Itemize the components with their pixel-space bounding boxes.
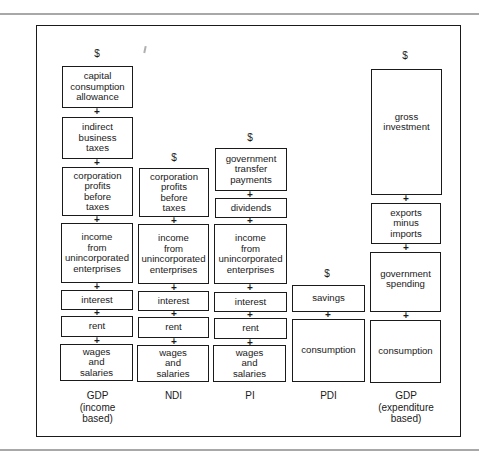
box-label: exports minus imports (390, 208, 421, 240)
box-label: rent (242, 323, 259, 334)
box-wages-salaries: wages and salaries (60, 344, 133, 381)
box-label: interest (158, 296, 189, 307)
plus-sign: + (323, 311, 333, 319)
box-label: wages and salaries (233, 348, 266, 380)
box-wages-salaries: wages and salaries (213, 345, 286, 382)
column-label-ndi: NDI (138, 390, 209, 402)
plus-sign: + (245, 284, 255, 292)
box-label: interest (235, 297, 266, 308)
box-label: income from unincorporated enterprises (218, 233, 282, 275)
box-label: dividends (231, 203, 272, 214)
column-label-gdp-income: GDP (income based) (62, 390, 133, 425)
top-rule (0, 13, 479, 15)
column-label-gdp-expenditure: GDP (expenditure based) (362, 390, 450, 425)
plus-sign: + (92, 108, 102, 116)
plus-sign: + (401, 312, 411, 320)
box-label: interest (81, 295, 112, 306)
box-income-unincorporated: income from unincorporated enterprises (61, 223, 133, 283)
bottom-rule (0, 449, 479, 451)
box-rent: rent (61, 316, 133, 337)
box-corporation-profits: corporation profits before taxes (139, 168, 209, 217)
box-label: gross investment (383, 112, 429, 133)
dollar-sign: $ (240, 132, 260, 143)
box-government-spending: government spending (370, 252, 441, 312)
box-income-unincorporated: income from unincorporated enterprises (214, 224, 287, 284)
box-indirect-business-taxes: indirect business taxes (62, 117, 133, 159)
dollar-sign: $ (395, 50, 415, 61)
box-gross-investment: gross investment (371, 69, 442, 195)
column-label-pi: PI (214, 390, 286, 402)
box-label: indirect business taxes (79, 122, 117, 154)
box-government-transfer-payments: government transfer payments (215, 148, 287, 191)
box-income-unincorporated: income from unincorporated enterprises (138, 224, 209, 284)
box-wages-salaries: wages and salaries (137, 345, 209, 382)
box-label: consumption (301, 345, 355, 356)
plus-sign: + (401, 195, 411, 203)
dollar-sign: $ (317, 268, 337, 279)
box-savings: savings (292, 285, 365, 312)
box-consumption: consumption (370, 320, 441, 383)
box-consumption: consumption (292, 319, 365, 382)
box-corporation-profits: corporation profits before taxes (62, 167, 133, 216)
box-label: consumption (378, 346, 432, 357)
box-capital-consumption-allowance: capital consumption allowance (62, 66, 133, 108)
box-label: income from unincorporated enterprises (141, 233, 205, 275)
plus-sign: + (92, 159, 102, 167)
box-label: rent (165, 322, 182, 333)
box-label: capital consumption allowance (70, 71, 124, 103)
dollar-sign: $ (164, 152, 184, 163)
box-rent: rent (214, 318, 287, 339)
dollar-sign: $ (87, 48, 107, 59)
box-label: rent (89, 321, 106, 332)
box-label: corporation profits before taxes (150, 172, 198, 214)
box-label: government spending (380, 269, 431, 290)
box-rent: rent (138, 317, 209, 338)
box-label: government transfer payments (226, 154, 277, 186)
box-exports-minus-imports: exports minus imports (371, 203, 441, 244)
column-label-pdi: PDI (292, 390, 365, 402)
plus-sign: + (401, 244, 411, 252)
box-label: wages and salaries (156, 348, 189, 380)
box-label: corporation profits before taxes (74, 171, 122, 213)
box-label: wages and salaries (80, 347, 113, 379)
box-label: income from unincorporated enterprises (65, 232, 129, 274)
box-label: savings (312, 293, 345, 304)
